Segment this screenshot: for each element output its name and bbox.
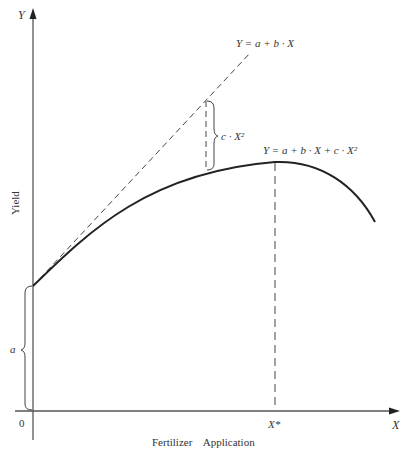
gap-label: c · X² [221,130,245,142]
optimum-label: X* [267,418,281,430]
x-axis-arrow-icon [389,408,400,415]
optimum-indicator: X* [267,163,281,430]
y-axis-symbol: Y [18,8,26,22]
origin-label: 0 [19,417,25,429]
quadratic-equation: Y = a + b · X + c · X² [263,144,358,156]
intercept-brace-icon [21,286,32,410]
quadratic-curve: Y = a + b · X + c · X² [33,144,375,286]
y-axis: Y Yield [9,8,37,440]
linear-equation: Y = a + b · X [236,37,295,49]
x-axis: X Fertilizer Application 0 [15,408,400,449]
y-axis-arrow-icon [30,8,37,19]
gap-brace-icon [207,101,218,170]
x-axis-label: Fertilizer Application [152,436,255,448]
intercept-label: a [10,343,16,355]
gap-indicator: c · X² [206,101,245,170]
yield-fertilizer-diagram: Y Yield X Fertilizer Application 0 Y = a… [0,0,408,460]
x-axis-symbol: X [391,418,400,432]
intercept-indicator: a [10,286,32,410]
y-axis-label: Yield [9,191,21,215]
